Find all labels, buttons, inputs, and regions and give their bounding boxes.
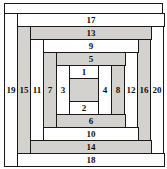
strip-20: 20 [150,13,164,167]
strip-7: 7 [43,52,57,128]
strip-11: 11 [30,39,44,141]
strip-2: 2 [69,101,99,115]
strip-17: 17 [17,13,165,27]
strip-label-10: 10 [87,130,96,139]
strip-label-12: 12 [127,86,136,95]
strip-label-13: 13 [87,29,96,38]
strip-label-18: 18 [87,156,96,165]
strip-9: 9 [43,39,139,53]
center-square [69,78,99,102]
strip-16: 16 [137,26,151,154]
strip-label-1: 1 [82,68,87,77]
log-cabin-diagram: 2019181716151413121110987654321 [0,0,167,169]
strip-label-11: 11 [33,86,42,95]
strip-label-6: 6 [89,117,94,126]
strip-label-19: 19 [7,86,16,95]
strip-label-15: 15 [20,86,29,95]
strip-3: 3 [56,65,70,115]
strip-10: 10 [43,127,139,141]
strip-label-2: 2 [82,104,87,113]
strip-label-5: 5 [89,55,94,64]
strip-13: 13 [30,26,152,40]
strip-label-14: 14 [87,143,96,152]
strip-label-8: 8 [116,86,121,95]
strip-5: 5 [56,52,126,66]
strip-19: 19 [4,13,18,167]
strip-label-3: 3 [61,86,66,95]
strip-15: 15 [17,26,31,154]
strip-6: 6 [56,114,126,128]
strip-12: 12 [124,39,138,141]
strip-label-7: 7 [48,86,53,95]
strip-1: 1 [69,65,99,79]
strip-label-4: 4 [103,86,108,95]
strip-14: 14 [30,140,152,154]
strip-label-17: 17 [87,16,96,25]
strip-label-9: 9 [89,42,94,51]
strip-label-20: 20 [153,86,162,95]
strip-18: 18 [17,153,165,167]
strip-4: 4 [98,65,112,115]
strip-label-16: 16 [140,86,149,95]
